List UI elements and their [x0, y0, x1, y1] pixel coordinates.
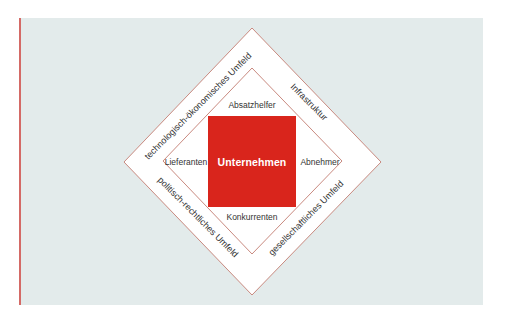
core-label: Unternehmen	[218, 156, 287, 168]
inner-label-top: Absatzhelfer	[228, 100, 275, 110]
company-core-box: Unternehmen	[208, 116, 296, 207]
inner-label-right: Abnehmer	[300, 157, 339, 167]
inner-label-bottom: Konkurrenten	[226, 212, 277, 222]
inner-label-left: Lieferanten	[165, 157, 208, 167]
